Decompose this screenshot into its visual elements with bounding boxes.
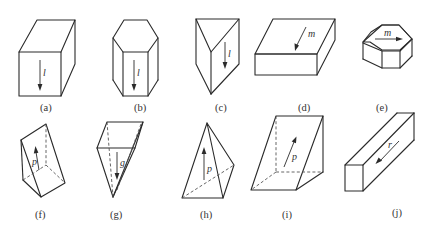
shape-c xyxy=(196,19,239,94)
vector-a-arrow-icon xyxy=(38,60,43,91)
caption-a: (a) xyxy=(40,102,52,114)
panel-f: p (f) xyxy=(21,124,65,221)
vector-f-label: p xyxy=(31,156,37,167)
vector-e-label: m xyxy=(384,27,391,38)
shape-i xyxy=(251,116,323,190)
caption-j: (j) xyxy=(392,207,402,219)
caption-g: (g) xyxy=(110,209,123,221)
shape-h xyxy=(182,123,234,198)
caption-e: (e) xyxy=(376,102,388,114)
caption-d: (d) xyxy=(298,102,311,114)
caption-i: (i) xyxy=(282,209,292,221)
vector-h-label: p xyxy=(206,163,212,174)
caption-b: (b) xyxy=(134,102,147,114)
vector-i-label: p xyxy=(291,151,297,162)
vector-g-arrow-icon xyxy=(115,152,120,180)
panel-e: m (e) xyxy=(363,25,412,114)
vector-c-label: l xyxy=(228,48,231,59)
panel-j: r (j) xyxy=(345,113,414,219)
vector-h-arrow-icon xyxy=(202,147,207,180)
panel-c: l (c) xyxy=(196,19,239,114)
crystal-forms-figure: l (a) l (b) l (c) xyxy=(0,0,432,230)
vector-d-arrow-icon xyxy=(295,27,307,51)
caption-c: (c) xyxy=(215,102,227,114)
shape-j xyxy=(345,113,414,191)
caption-f: (f) xyxy=(35,209,46,221)
vector-d-label: m xyxy=(308,28,315,39)
panel-g: g (g) xyxy=(97,122,143,221)
vector-c-arrow-icon xyxy=(223,42,228,69)
vector-a-label: l xyxy=(43,67,46,78)
shape-f xyxy=(21,124,65,197)
panel-h: p (h) xyxy=(182,123,234,221)
panel-i: p (i) xyxy=(251,116,323,221)
panel-d: m (d) xyxy=(255,19,335,114)
caption-h: (h) xyxy=(200,209,213,221)
panel-b: l (b) xyxy=(113,20,158,114)
vector-g-label: g xyxy=(120,157,125,168)
vector-j-label: r xyxy=(388,139,392,150)
vector-b-label: l xyxy=(137,67,140,78)
panel-a: l (a) xyxy=(19,20,75,114)
vector-b-arrow-icon xyxy=(132,60,137,91)
shape-a xyxy=(19,20,75,96)
